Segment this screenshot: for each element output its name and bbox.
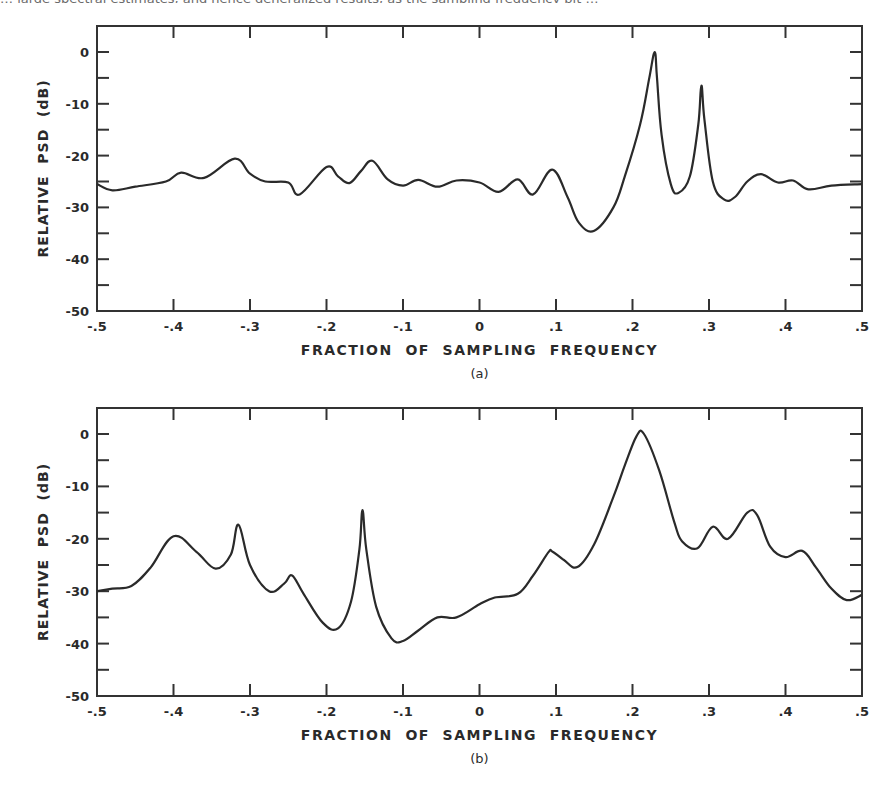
y-tick-label: -10 [66, 479, 90, 494]
psd-curve [97, 431, 862, 643]
y-tick-label: 0 [80, 45, 89, 60]
y-tick-label: -10 [66, 97, 90, 112]
panel-a: -.5-.4-.3-.2-.10.1.2.3.4.50-10-20-30-40-… [35, 26, 869, 381]
y-axis-label: RELATIVE PSD (dB) [35, 463, 51, 641]
x-tick-label: .5 [855, 319, 869, 334]
plot-frame [97, 26, 862, 311]
x-tick-label: .3 [702, 319, 716, 334]
x-tick-label: -.2 [317, 319, 336, 334]
x-tick-label: -.3 [240, 319, 259, 334]
panel-b: -.5-.4-.3-.2-.10.1.2.3.4.50-10-20-30-40-… [35, 408, 869, 766]
x-tick-label: 0 [475, 319, 484, 334]
x-tick-label: -.4 [164, 319, 183, 334]
psd-curve [97, 52, 862, 232]
x-tick-label: .2 [626, 319, 640, 334]
y-tick-label: -20 [66, 149, 90, 164]
plot-frame [97, 408, 862, 696]
figure: -.5-.4-.3-.2-.10.1.2.3.4.50-10-20-30-40-… [0, 0, 895, 796]
x-tick-label: -.5 [87, 704, 106, 719]
x-tick-label: -.1 [393, 704, 412, 719]
y-tick-label: -40 [66, 637, 90, 652]
x-tick-label: .2 [626, 704, 640, 719]
y-tick-label: -50 [66, 689, 90, 704]
x-tick-label: -.1 [393, 319, 412, 334]
x-tick-label: .4 [779, 704, 793, 719]
x-tick-label: -.2 [317, 704, 336, 719]
x-tick-label: .1 [549, 704, 563, 719]
x-tick-label: 0 [475, 704, 484, 719]
y-tick-label: -30 [66, 200, 90, 215]
x-axis-label: FRACTION OF SAMPLING FREQUENCY [301, 727, 658, 743]
x-tick-label: .4 [779, 319, 793, 334]
x-axis-label: FRACTION OF SAMPLING FREQUENCY [301, 342, 658, 358]
x-tick-label: .3 [702, 704, 716, 719]
y-tick-label: -50 [66, 304, 90, 319]
panel-caption: (a) [470, 366, 488, 381]
x-tick-label: .5 [855, 704, 869, 719]
y-tick-label: -30 [66, 584, 90, 599]
y-tick-label: -20 [66, 532, 90, 547]
y-axis-label: RELATIVE PSD (dB) [35, 79, 51, 257]
x-tick-label: .1 [549, 319, 563, 334]
y-tick-label: -40 [66, 252, 90, 267]
panel-caption: (b) [470, 751, 488, 766]
x-tick-label: -.3 [240, 704, 259, 719]
y-tick-label: 0 [80, 427, 89, 442]
x-tick-label: -.4 [164, 704, 183, 719]
x-tick-label: -.5 [87, 319, 106, 334]
